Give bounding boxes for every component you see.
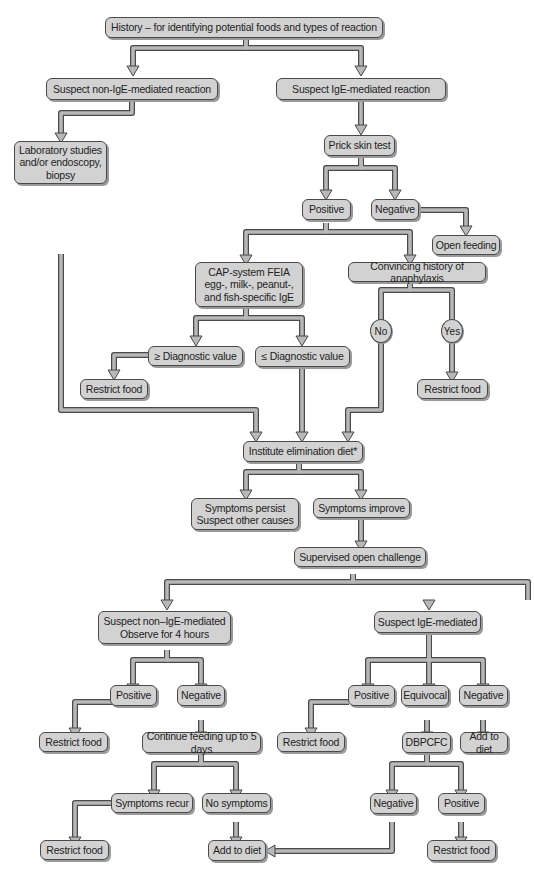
restrict-food-box-6: Restrict food [427, 840, 496, 861]
symptoms-persist-box: Symptoms persist Suspect other causes [191, 498, 299, 530]
restrict-food-box-3: Restrict food [39, 732, 108, 752]
add-to-diet-box-2: Add to diet [208, 840, 266, 861]
yes-circle: Yes [441, 319, 463, 343]
lab-studies-box: Laboratory studies and/or endoscopy, bio… [14, 141, 107, 184]
suspect-ige-reaction-box: Suspect IgE-mediated reaction [276, 78, 446, 100]
ge-diagnostic-value-box: ≥ Diagnostic value [148, 346, 243, 366]
symptoms-recur-box: Symptoms recur [111, 793, 193, 813]
add-to-diet-box-1: Add to diet [460, 732, 508, 753]
restrict-food-box-1: Restrict food [80, 379, 148, 399]
restrict-food-box-2: Restrict food [417, 379, 488, 399]
equivocal-box: Equivocal [401, 685, 449, 706]
le-diagnostic-value-box: ≤ Diagnostic value [255, 346, 350, 367]
restrict-food-box-5: Restrict food [40, 840, 109, 860]
no-circle: No [370, 319, 392, 343]
supervised-open-challenge-box: Supervised open challenge [294, 547, 426, 567]
convincing-history-anaphylaxis-box: Convincing history of anaphylaxis [348, 262, 486, 282]
cap-system-feia-box: CAP-system FEIA egg-, milk-, peanut-, an… [195, 262, 303, 307]
positive-non-ige-box: Positive [110, 685, 157, 706]
suspect-ige-mediated-box: Suspect IgE-mediated [374, 611, 481, 633]
symptoms-improve-box: Symptoms improve [313, 498, 410, 518]
history-box: History – for identifying potential food… [105, 17, 383, 38]
prick-skin-test-box: Prick skin test [324, 135, 395, 156]
restrict-food-box-4: Restrict food [277, 732, 345, 752]
open-feeding-box: Open feeding [432, 235, 500, 255]
suspect-non-ige-reaction-box: Suspect non-IgE-mediated reaction [46, 78, 218, 100]
positive-ige-box: Positive [348, 685, 395, 706]
positive-skin-test-box: Positive [302, 199, 351, 220]
no-symptoms-box: No symptoms [202, 793, 271, 813]
negative-dbpcfc-box: Negative [370, 793, 417, 814]
negative-skin-test-box: Negative [371, 199, 419, 220]
continue-feeding-box: Continue feeding up to 5 days [142, 732, 261, 753]
negative-ige-box: Negative [459, 685, 508, 706]
positive-dbpcfc-box: Positive [438, 793, 485, 814]
negative-non-ige-box: Negative [177, 685, 225, 706]
suspect-non-ige-observe-box: Suspect non–IgE-mediated Observe for 4 h… [98, 611, 231, 644]
dbpcfc-box: DBPCFC [402, 732, 451, 753]
institute-elimination-diet-box: Institute elimination diet* [243, 441, 363, 462]
